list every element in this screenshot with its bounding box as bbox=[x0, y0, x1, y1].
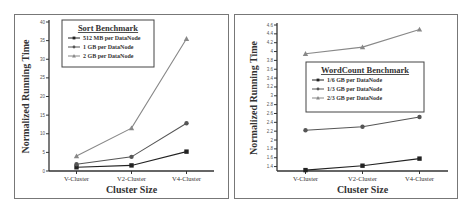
triangle-marker bbox=[74, 153, 79, 158]
square-marker bbox=[303, 168, 307, 172]
circle-marker bbox=[74, 162, 78, 166]
wordcount-chart-svg: 1.41.61.822.22.42.62.833.23.43.63.844.24… bbox=[235, 15, 457, 198]
x-tick-label: V-Cluster bbox=[64, 175, 90, 182]
square-marker bbox=[184, 149, 188, 153]
y-tick-label: 3.2 bbox=[267, 84, 274, 89]
y-tick-label: 3 bbox=[270, 93, 273, 98]
circle-marker bbox=[317, 88, 320, 91]
x-tick-label: V2-Cluster bbox=[348, 175, 378, 182]
circle-marker bbox=[184, 121, 188, 125]
legend: WordCount Benchmark1/6 GB per DataNode1/… bbox=[306, 62, 424, 112]
legend-entry: 1/3 GB per DataNode bbox=[327, 86, 382, 92]
y-tick-label: 2.8 bbox=[267, 102, 274, 107]
legend-entry: 1 GB per DataNode bbox=[83, 44, 134, 50]
y-tick-label: 2.6 bbox=[267, 111, 274, 116]
x-tick-label: V4-Cluster bbox=[172, 175, 202, 182]
y-tick-label: 2.2 bbox=[267, 129, 274, 134]
y-tick-label: 1.4 bbox=[267, 164, 274, 169]
y-tick-label: 3.6 bbox=[267, 67, 274, 72]
legend-title: Sort Benchmark bbox=[78, 23, 138, 33]
wordcount-benchmark-chart: 1.41.61.822.22.42.62.833.23.43.63.844.24… bbox=[234, 14, 458, 199]
legend-entry: 2 GB per DataNode bbox=[83, 53, 134, 59]
triangle-marker bbox=[417, 27, 422, 32]
legend-entry: 1/6 GB per DataNode bbox=[327, 77, 382, 83]
y-tick-label: 2.4 bbox=[267, 120, 274, 125]
y-tick-label: 4.2 bbox=[267, 40, 274, 45]
y-tick-label: 1.8 bbox=[267, 146, 274, 151]
triangle-marker bbox=[129, 125, 134, 130]
y-tick-label: 1.6 bbox=[267, 155, 274, 160]
triangle-marker bbox=[184, 36, 189, 41]
y-axis-title: Normalized Running Time bbox=[248, 40, 259, 155]
square-marker bbox=[360, 163, 364, 167]
y-tick-label: 4.4 bbox=[267, 31, 274, 36]
series-line bbox=[303, 27, 422, 56]
x-axis-title: Cluster Size bbox=[337, 184, 389, 195]
y-tick-label: 10 bbox=[40, 131, 46, 136]
square-marker bbox=[129, 163, 133, 167]
circle-marker bbox=[303, 128, 307, 132]
circle-marker bbox=[73, 46, 76, 49]
square-marker bbox=[73, 37, 76, 40]
circle-marker bbox=[129, 155, 133, 159]
y-tick-label: 3.4 bbox=[267, 76, 274, 81]
y-tick-label: 0 bbox=[42, 169, 45, 174]
circle-marker bbox=[360, 125, 364, 129]
legend-entry: 2/3 GB per DataNode bbox=[327, 95, 382, 101]
y-tick-label: 35 bbox=[40, 38, 46, 43]
y-tick-label: 40 bbox=[40, 20, 46, 25]
y-tick-label: 2 bbox=[270, 138, 273, 143]
circle-marker bbox=[417, 115, 421, 119]
y-tick-label: 4 bbox=[270, 49, 273, 54]
legend-entry: 512 MB per DataNode bbox=[83, 35, 141, 41]
x-axis-title: Cluster Size bbox=[106, 184, 158, 195]
series-line bbox=[74, 149, 188, 169]
sort-chart-svg: 0510152025303540V-ClusterV2-ClusterV4-Cl… bbox=[15, 15, 228, 198]
y-tick-label: 5 bbox=[42, 150, 45, 155]
y-axis-title: Normalized Running Time bbox=[20, 39, 31, 154]
sort-benchmark-chart: 0510152025303540V-ClusterV2-ClusterV4-Cl… bbox=[14, 14, 229, 199]
series-line bbox=[303, 115, 421, 133]
y-tick-label: 4.6 bbox=[267, 23, 274, 28]
square-marker bbox=[417, 156, 421, 160]
x-tick-label: V4-Cluster bbox=[405, 175, 435, 182]
x-tick-label: V2-Cluster bbox=[117, 175, 147, 182]
y-tick-label: 15 bbox=[40, 113, 46, 118]
series-line bbox=[303, 156, 421, 172]
legend-title: WordCount Benchmark bbox=[321, 65, 409, 75]
y-tick-label: 30 bbox=[40, 57, 46, 62]
square-marker bbox=[317, 79, 320, 82]
legend: Sort Benchmark512 MB per DataNode1 GB pe… bbox=[62, 20, 154, 67]
x-tick-label: V-Cluster bbox=[293, 175, 319, 182]
y-tick-label: 20 bbox=[40, 94, 46, 99]
y-tick-label: 3.8 bbox=[267, 58, 274, 63]
y-tick-label: 25 bbox=[40, 75, 46, 80]
